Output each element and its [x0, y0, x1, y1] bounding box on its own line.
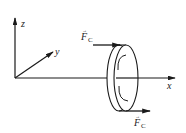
z-axis: z	[15, 18, 25, 78]
z-axis-label: z	[20, 18, 25, 29]
force-top: F C →	[80, 28, 120, 45]
force-top-vector-mark: →	[82, 28, 87, 33]
force-bottom-subscript: C	[141, 122, 146, 130]
disc-body	[107, 45, 138, 111]
y-axis-label: y	[54, 46, 60, 57]
free-body-diagram: z y x F C → F C →	[0, 0, 186, 133]
force-bottom-vector-mark: →	[135, 114, 140, 119]
y-axis: y	[15, 46, 60, 78]
x-axis: x	[15, 78, 175, 91]
force-top-subscript: C	[88, 36, 93, 44]
force-bottom: F C →	[126, 111, 150, 130]
x-axis-label: x	[166, 80, 172, 91]
